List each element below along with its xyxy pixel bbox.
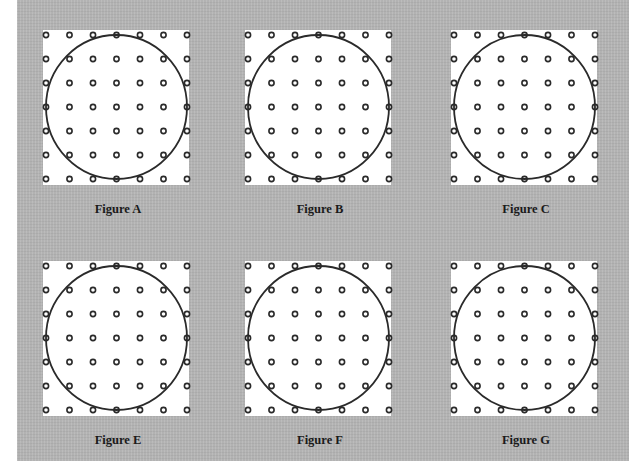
figure-background (451, 261, 597, 416)
figure-e-diagram (43, 261, 203, 423)
figure-a-diagram (43, 30, 203, 192)
figure-g-diagram (451, 261, 611, 423)
figure-background (451, 30, 597, 185)
figure-c-label: Figure C (451, 202, 601, 217)
figure-e-label: Figure E (43, 433, 193, 448)
figure-g-label: Figure G (451, 433, 601, 448)
figure-e: Figure E (43, 261, 203, 461)
figure-b-diagram (245, 30, 405, 192)
figure-f-diagram (245, 261, 405, 423)
figure-c-diagram (451, 30, 611, 192)
figure-background (43, 30, 189, 185)
figure-a-label: Figure A (43, 202, 193, 217)
figure-f-label: Figure F (245, 433, 395, 448)
figure-g: Figure G (451, 261, 611, 461)
figure-c: Figure C (451, 30, 611, 230)
figure-f: Figure F (245, 261, 405, 461)
figure-a: Figure A (43, 30, 203, 230)
figure-b-label: Figure B (245, 202, 395, 217)
figure-b: Figure B (245, 30, 405, 230)
figure-background (245, 261, 391, 416)
figure-background (43, 261, 189, 416)
figure-background (245, 30, 391, 185)
